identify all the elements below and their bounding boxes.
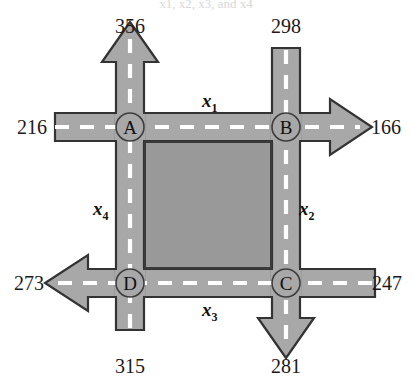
caption-fragment-text: x1, x2, x3, and x4 [159,0,253,11]
variable-base-x3: x [201,299,212,320]
diagram-canvas: x1, x2, x3, and x4 [0,0,413,390]
variable-base-x4: x [92,198,103,219]
flow-label-216: 216 [17,116,47,138]
variable-base-x1: x [201,90,212,111]
flow-label-281: 281 [271,355,301,377]
variable-sub-x3: 3 [212,310,218,324]
node-label-c: C [280,273,293,294]
node-label-d: D [123,273,137,294]
traffic-flow-diagram: x1, x2, x3, and x4 [0,0,413,390]
flow-label-273: 273 [14,272,44,294]
variable-sub-x4: 4 [103,209,109,223]
flow-label-315: 315 [115,355,145,377]
node-label-b: B [280,117,293,138]
flow-label-298: 298 [271,15,301,37]
flow-label-356: 356 [115,15,145,37]
flow-label-247: 247 [372,272,402,294]
city-block [145,142,271,268]
variable-sub-x2: 2 [309,209,315,223]
flow-label-166: 166 [371,116,401,138]
node-label-a: A [123,117,137,138]
variable-base-x2: x [298,198,309,219]
variable-sub-x1: 1 [212,101,218,115]
